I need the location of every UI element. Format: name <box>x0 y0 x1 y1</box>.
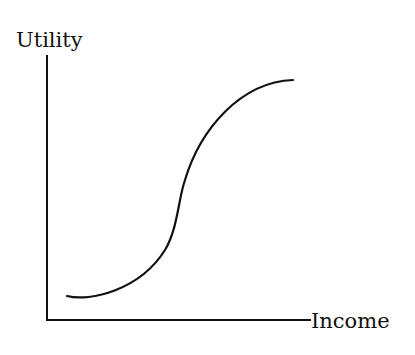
chart-canvas <box>0 0 415 355</box>
x-axis-label: Income <box>311 311 390 332</box>
utility-curve <box>67 80 293 297</box>
y-axis-label: Utility <box>16 30 83 51</box>
